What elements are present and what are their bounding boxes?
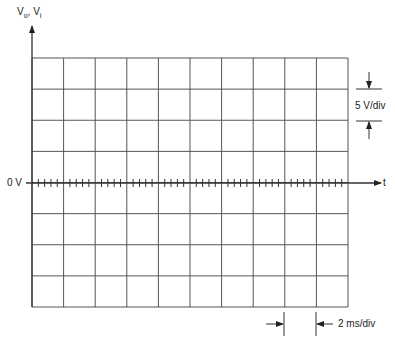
vertical-scale-label: 5 V/div: [355, 100, 386, 111]
t-axis-label: t: [383, 177, 386, 188]
zero-volt-label: 0 V: [7, 177, 22, 188]
graticule: [0, 0, 395, 346]
horizontal-scale-indicator: [266, 312, 333, 336]
horizontal-scale-label: 2 ms/div: [338, 318, 375, 329]
y-axis-label: Vo, Vi: [17, 6, 41, 19]
